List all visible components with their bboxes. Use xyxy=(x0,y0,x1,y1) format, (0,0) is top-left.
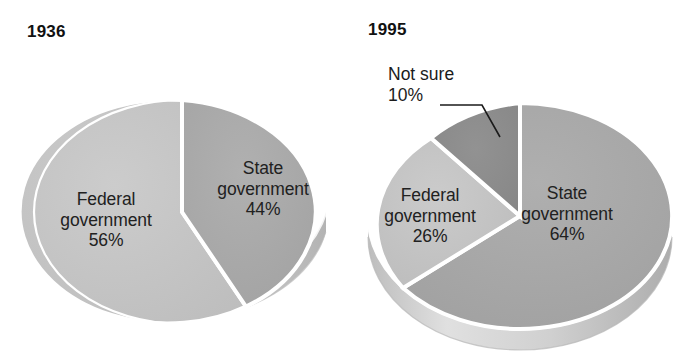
pie-label-federal-1995: Federal government 26% xyxy=(366,185,494,247)
pie-label-state-1995: State government 64% xyxy=(502,183,632,245)
panel-title-1936: 1936 xyxy=(27,22,66,42)
pie-label-federal-value-1936: 56% xyxy=(36,230,176,251)
pie-label-state-1936: State government 44% xyxy=(198,158,328,220)
pie-label-notsure-name-1995: Not sure xyxy=(388,64,513,85)
chart-panel-1995: 1995 xyxy=(350,0,700,353)
pie-label-federal-1936: Federal government 56% xyxy=(36,189,176,251)
pie-label-notsure-1995: Not sure 10% xyxy=(388,64,513,106)
pie-label-federal-line1-1936: Federal xyxy=(36,189,176,210)
pie-label-state-value-1995: 64% xyxy=(502,224,632,245)
chart-panel-1936: 1936 xyxy=(0,0,350,353)
pie-label-state-value-1936: 44% xyxy=(198,199,328,220)
panel-title-1995: 1995 xyxy=(368,20,407,40)
pie-label-state-line1-1936: State xyxy=(198,158,328,179)
pie-label-federal-value-1995: 26% xyxy=(366,226,494,247)
pie-label-federal-line2-1995: government xyxy=(366,206,494,227)
pie-label-federal-line2-1936: government xyxy=(36,210,176,231)
pie-label-federal-line1-1995: Federal xyxy=(366,185,494,206)
pie-label-notsure-value-1995: 10% xyxy=(388,85,513,106)
pie-label-state-line1-1995: State xyxy=(502,183,632,204)
pie-label-state-line2-1936: government xyxy=(198,179,328,200)
pie-label-state-line2-1995: government xyxy=(502,204,632,225)
